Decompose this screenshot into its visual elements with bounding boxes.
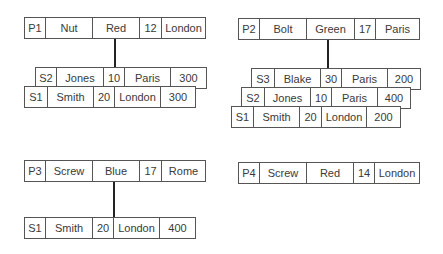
- part-city: London: [375, 163, 419, 183]
- supplier-number: S1: [25, 87, 48, 107]
- supplier-record: S1 Smith 20 London 200: [231, 106, 401, 128]
- supplier-status: 30: [321, 69, 342, 89]
- supplier-name: Smith: [46, 218, 93, 238]
- supplier-city: Paris: [125, 68, 171, 88]
- supplier-number: S2: [36, 68, 57, 88]
- quantity: 200: [388, 69, 420, 89]
- part-record-p1: P1 Nut Red 12 London: [24, 17, 206, 39]
- supplier-city: London: [114, 218, 160, 238]
- supplier-number: S3: [252, 69, 275, 89]
- supplier-city: London: [322, 107, 367, 127]
- part-number: P2: [239, 19, 260, 39]
- link-line: [114, 39, 116, 68]
- supplier-status: 10: [311, 88, 332, 108]
- supplier-name: Jones: [265, 88, 311, 108]
- supplier-record: S1 Smith 20 London 400: [24, 217, 196, 239]
- part-color: Green: [307, 19, 355, 39]
- supplier-name: Jones: [57, 68, 104, 88]
- supplier-status: 10: [104, 68, 125, 88]
- part-name: Nut: [46, 18, 93, 38]
- part-color: Blue: [93, 161, 140, 181]
- supplier-city: Paris: [332, 88, 378, 108]
- part-name: Screw: [46, 161, 93, 181]
- supplier-number: S2: [242, 88, 265, 108]
- supplier-city: London: [115, 87, 161, 107]
- part-number: P3: [25, 161, 46, 181]
- supplier-status: 20: [94, 87, 115, 107]
- supplier-record: S1 Smith 20 London 300: [24, 86, 196, 108]
- supplier-name: Smith: [48, 87, 94, 107]
- part-number: P1: [25, 18, 46, 38]
- supplier-name: Smith: [254, 107, 300, 127]
- link-line: [113, 182, 115, 218]
- part-color: Red: [93, 18, 140, 38]
- part-city: Rome: [162, 161, 205, 181]
- part-color: Red: [307, 163, 354, 183]
- supplier-status: 20: [93, 218, 114, 238]
- quantity: 400: [160, 218, 195, 238]
- supplier-number: S1: [232, 107, 254, 127]
- part-weight: 17: [140, 161, 162, 181]
- part-weight: 14: [354, 163, 375, 183]
- part-record-p3: P3 Screw Blue 17 Rome: [24, 160, 206, 182]
- quantity: 300: [171, 68, 206, 88]
- supplier-number: S1: [25, 218, 46, 238]
- part-name: Screw: [260, 163, 307, 183]
- link-line: [327, 40, 329, 69]
- quantity: 400: [378, 88, 410, 108]
- part-city: London: [162, 18, 205, 38]
- part-record-p2: P2 Bolt Green 17 Paris: [238, 18, 420, 40]
- part-name: Bolt: [260, 19, 307, 39]
- part-record-p4: P4 Screw Red 14 London: [238, 162, 420, 184]
- quantity: 200: [367, 107, 400, 127]
- part-weight: 12: [140, 18, 162, 38]
- part-weight: 17: [355, 19, 376, 39]
- supplier-name: Blake: [275, 69, 321, 89]
- quantity: 300: [161, 87, 195, 107]
- supplier-status: 20: [300, 107, 322, 127]
- part-city: Paris: [376, 19, 419, 39]
- supplier-city: Paris: [342, 69, 388, 89]
- part-number: P4: [239, 163, 260, 183]
